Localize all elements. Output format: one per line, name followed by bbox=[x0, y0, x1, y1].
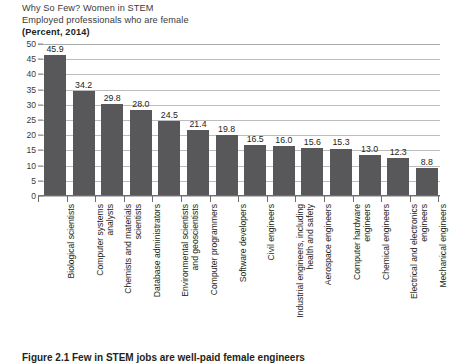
x-axis-tick bbox=[410, 196, 411, 202]
x-axis-category-label: Biological scientists bbox=[66, 204, 76, 344]
bar-value-label: 28.0 bbox=[121, 100, 161, 109]
y-axis-tick-label: 35 bbox=[18, 85, 36, 94]
x-axis-tick bbox=[438, 196, 439, 202]
y-axis-tick-label: 30 bbox=[18, 101, 36, 110]
x-axis-ticks bbox=[38, 196, 440, 203]
y-axis-tick-label: 20 bbox=[18, 131, 36, 140]
chart-header: Why So Few? Women in STEM Employed profe… bbox=[22, 2, 442, 39]
y-axis-tick-label: 15 bbox=[18, 146, 36, 155]
y-axis-tick-label: 25 bbox=[18, 116, 36, 125]
x-axis-tick bbox=[152, 196, 153, 202]
x-axis-category-label: Mechanical engineers bbox=[438, 204, 448, 344]
bar-series: 45.934.229.828.024.521.419.816.516.015.6… bbox=[38, 44, 440, 196]
bar[interactable] bbox=[73, 91, 95, 195]
x-axis-category-label: Computer hardware engineers bbox=[352, 204, 372, 344]
x-axis-category-label: Civil engineers bbox=[266, 204, 276, 344]
x-axis-tick bbox=[324, 196, 325, 202]
bar[interactable] bbox=[130, 110, 152, 195]
bar-value-label: 24.5 bbox=[149, 111, 189, 120]
y-axis-tick-label: 0 bbox=[18, 192, 36, 201]
x-axis-category-label: Aerospace engineers bbox=[323, 204, 333, 344]
x-axis-category-label: Industrial engineers, including health a… bbox=[295, 204, 315, 344]
x-axis-category-label: Chemical engineers bbox=[381, 204, 391, 344]
bar[interactable] bbox=[216, 135, 238, 195]
chart-subtitle: Employed professionals who are female bbox=[22, 14, 442, 26]
bar[interactable] bbox=[359, 155, 381, 195]
x-axis-tick bbox=[181, 196, 182, 202]
x-axis-category-label: Electrical and electronics engineers bbox=[409, 204, 429, 344]
x-axis-tick bbox=[267, 196, 268, 202]
page-title: Why So Few? Women in STEM bbox=[22, 2, 442, 14]
bar[interactable] bbox=[330, 149, 352, 196]
bar[interactable] bbox=[158, 121, 180, 195]
x-axis-category-label: Chemists and materials scientists bbox=[123, 204, 143, 344]
bar-value-label: 45.9 bbox=[35, 45, 75, 54]
x-axis-tick bbox=[381, 196, 382, 202]
x-axis-category-label: Software developers bbox=[238, 204, 248, 344]
bar[interactable] bbox=[101, 104, 123, 195]
x-axis-tick bbox=[38, 196, 39, 202]
y-axis-tick-label: 45 bbox=[18, 55, 36, 64]
x-axis-category-label: Computer programmers bbox=[209, 204, 219, 344]
x-axis-tick bbox=[238, 196, 239, 202]
bar[interactable] bbox=[273, 146, 295, 195]
bar-value-label: 12.3 bbox=[378, 148, 418, 157]
chart-plot-area: 05101520253035404550 45.934.229.828.024.… bbox=[0, 44, 458, 204]
x-axis-category-label: Database administrators bbox=[152, 204, 162, 344]
x-axis-tick bbox=[353, 196, 354, 202]
figure-caption: Figure 2.1 Few in STEM jobs are well-pai… bbox=[22, 352, 452, 364]
x-axis-tick bbox=[295, 196, 296, 202]
bar[interactable] bbox=[301, 148, 323, 195]
chart-units: (Percent, 2014) bbox=[22, 26, 442, 38]
x-axis-tick bbox=[210, 196, 211, 202]
bar[interactable] bbox=[187, 130, 209, 195]
y-axis: 05101520253035404550 bbox=[18, 44, 36, 196]
bar-value-label: 34.2 bbox=[64, 81, 104, 90]
y-axis-tick-label: 40 bbox=[18, 70, 36, 79]
bar[interactable] bbox=[44, 55, 66, 195]
bar-value-label: 8.8 bbox=[407, 158, 447, 167]
y-axis-tick-label: 10 bbox=[18, 161, 36, 170]
x-axis-tick bbox=[95, 196, 96, 202]
bar[interactable] bbox=[416, 168, 438, 195]
x-axis-tick bbox=[67, 196, 68, 202]
x-axis-category-label: Computer systems analysts bbox=[95, 204, 115, 344]
y-axis-tick-label: 50 bbox=[18, 40, 36, 49]
bar-value-label: 19.8 bbox=[207, 125, 247, 134]
bar[interactable] bbox=[244, 145, 266, 195]
y-axis-tick-label: 5 bbox=[18, 177, 36, 186]
x-axis-tick bbox=[124, 196, 125, 202]
x-axis-category-label: Environmental scientists and geoscientis… bbox=[180, 204, 200, 344]
x-axis-labels: Biological scientistsComputer systems an… bbox=[38, 204, 440, 344]
